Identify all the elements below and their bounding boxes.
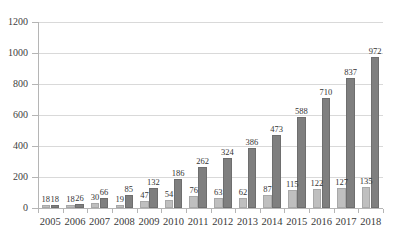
data-label-series-1-2013: 62 [232,188,254,197]
x-axis-tick [211,209,212,213]
bar-series-1-2016 [313,189,322,208]
x-axis-label-2018: 2018 [358,216,383,228]
bar-series-1-2009 [140,201,149,208]
data-label-series-1-2016: 122 [306,179,328,188]
data-label-series-2-2012: 324 [216,148,238,157]
y-axis-tick-label: 200 [13,172,28,182]
data-label-series-2-2009: 132 [142,178,164,187]
data-label-series-2-2014: 473 [266,125,288,134]
x-axis-tick [112,209,113,213]
x-axis-label-2006: 2006 [63,216,88,228]
x-axis-label-2010: 2010 [161,216,186,228]
data-label-series-1-2014: 87 [257,185,279,194]
data-label-series-1-2009: 47 [133,191,155,200]
bar-series-2-2012 [223,158,232,208]
y-axis-tick-label: 600 [13,110,28,120]
x-axis-label-2008: 2008 [112,216,137,228]
data-label-series-1-2012: 63 [207,188,229,197]
x-axis-label-2011: 2011 [186,216,211,228]
x-axis-label-2016: 2016 [309,216,334,228]
data-label-series-2-2010: 186 [167,169,189,178]
y-axis-tick-label: 0 [23,203,28,213]
data-label-series-2-2016: 710 [315,88,337,97]
bar-series-1-2011 [189,196,198,208]
bar-series-2-2016 [322,98,331,208]
bar-series-1-2015 [288,190,297,208]
y-axis-tick-label: 1200 [8,17,28,27]
x-axis-label-2007: 2007 [87,216,112,228]
x-axis-label-2017: 2017 [334,216,359,228]
data-label-series-1-2015: 115 [281,180,303,189]
data-label-series-1-2008: 19 [109,195,131,204]
bar-series-2-2013 [248,148,257,208]
x-axis-tick [334,209,335,213]
x-axis-tick [284,209,285,213]
bar-series-1-2014 [263,195,272,208]
x-axis-tick [358,209,359,213]
bar-series-1-2010 [165,200,174,208]
x-axis-label-2015: 2015 [284,216,309,228]
x-axis-tick [137,209,138,213]
bar-chart: 020040060080010001200 181818263066198547… [0,0,394,251]
data-label-series-2-2018: 972 [364,47,386,56]
x-axis-label-2005: 2005 [38,216,63,228]
bar-series-1-2018 [362,187,371,208]
x-axis-tick [186,209,187,213]
data-label-series-2-2013: 386 [241,138,263,147]
data-label-series-1-2010: 54 [158,190,180,199]
data-label-series-1-2011: 76 [183,186,205,195]
bar-series-2-2014 [272,135,281,208]
bar-series-1-2017 [337,188,346,208]
bar-series-1-2012 [214,198,223,208]
x-axis-tick [235,209,236,213]
x-axis-label-2013: 2013 [235,216,260,228]
data-label-series-2-2017: 837 [340,68,362,77]
data-label-series-1-2018: 135 [355,177,377,186]
x-axis-label-2014: 2014 [260,216,285,228]
x-axis-label-2009: 2009 [137,216,162,228]
x-axis-tick [309,209,310,213]
data-label-series-1-2017: 127 [331,178,353,187]
y-axis-tick-label: 1000 [8,48,28,58]
x-axis-tick [161,209,162,213]
x-axis-tick [260,209,261,213]
data-label-series-2-2011: 262 [192,157,214,166]
y-axis-tick-label: 800 [13,79,28,89]
x-axis-tick [63,209,64,213]
data-label-series-2-2015: 588 [290,107,312,116]
bar-series-1-2013 [239,198,248,208]
bar-series-2-2015 [297,117,306,208]
x-axis-label-2012: 2012 [211,216,236,228]
x-axis-tick [383,209,384,213]
x-axis-tick [87,209,88,213]
y-axis-tick-label: 400 [13,141,28,151]
bar-series-2-2017 [346,78,355,208]
x-axis-tick [38,209,39,213]
